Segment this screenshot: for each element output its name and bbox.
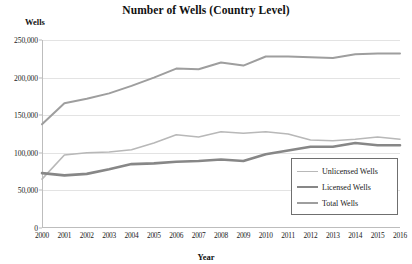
chart-figure: Number of Wells (Country Level) Wells 05… bbox=[0, 0, 412, 264]
x-axis-tick-label: 2007 bbox=[192, 231, 206, 240]
y-axis-tick-label: 100,000 bbox=[14, 148, 42, 157]
x-axis-tick-label: 2012 bbox=[304, 231, 318, 240]
legend-line-swatch bbox=[297, 202, 318, 204]
x-axis-tick-label: 2010 bbox=[259, 231, 273, 240]
y-axis-title: Wells bbox=[25, 17, 45, 27]
x-axis-tick-label: 2002 bbox=[80, 231, 94, 240]
legend-item-label: Unlicensed Wells bbox=[322, 167, 378, 176]
x-axis-tick-label: 2005 bbox=[147, 231, 161, 240]
x-axis-tick-label: 2009 bbox=[236, 231, 250, 240]
y-axis-tick-label: 250,000 bbox=[14, 36, 42, 45]
x-axis-tick-label: 2003 bbox=[102, 231, 116, 240]
x-axis-tick-label: 2008 bbox=[214, 231, 228, 240]
x-axis-tick-label: 2015 bbox=[371, 231, 385, 240]
x-axis-tick-label: 2001 bbox=[57, 231, 71, 240]
x-axis-tick-label: 2014 bbox=[348, 231, 362, 240]
legend-item[interactable]: Licensed Wells bbox=[292, 179, 397, 195]
y-axis-tick-label: 200,000 bbox=[14, 73, 42, 82]
x-axis-tick-label: 2016 bbox=[393, 231, 407, 240]
x-axis-tick-label: 2006 bbox=[169, 231, 183, 240]
x-axis-tick-label: 2013 bbox=[326, 231, 340, 240]
series-line-total-wells bbox=[42, 54, 400, 125]
x-axis-tick-label: 2011 bbox=[281, 231, 295, 240]
legend-item-label: Total Wells bbox=[322, 199, 358, 208]
chart-legend: Unlicensed WellsLicensed WellsTotal Well… bbox=[291, 158, 398, 215]
chart-title: Number of Wells (Country Level) bbox=[0, 4, 412, 16]
legend-item[interactable]: Unlicensed Wells bbox=[292, 163, 397, 179]
y-axis-tick-label: 150,000 bbox=[14, 111, 42, 120]
legend-item[interactable]: Total Wells bbox=[292, 195, 397, 211]
legend-line-swatch bbox=[297, 171, 318, 172]
x-axis-tick-label: 2000 bbox=[35, 231, 49, 240]
x-axis-title: Year bbox=[0, 252, 412, 262]
legend-item-label: Licensed Wells bbox=[322, 183, 371, 192]
x-axis-tick-label: 2004 bbox=[125, 231, 139, 240]
legend-line-swatch bbox=[297, 186, 318, 188]
